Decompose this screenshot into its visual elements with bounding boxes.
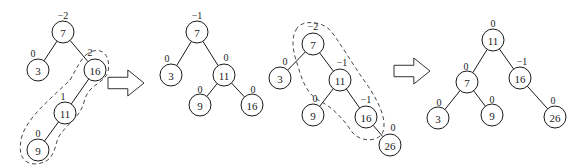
node-key: 3: [35, 65, 41, 77]
node-key: 11: [335, 75, 346, 87]
balance-factor: −2: [308, 21, 319, 32]
node-key: 9: [35, 145, 41, 157]
tree-edge: [70, 40, 88, 61]
tree-node: 16−1: [509, 56, 531, 90]
tree-edge: [44, 122, 58, 141]
tree-edge: [346, 89, 359, 108]
node-key: 9: [489, 110, 495, 122]
balance-factor: 0: [36, 128, 41, 139]
node-key: 3: [168, 70, 174, 82]
node-key: 7: [60, 27, 66, 39]
tree-node: 90: [302, 93, 324, 127]
tree-edge: [203, 41, 218, 65]
tree-edge: [71, 79, 88, 104]
balance-factor: 0: [437, 97, 442, 108]
tree-edge: [373, 125, 383, 136]
right-arrow-icon: [394, 58, 430, 84]
tree-edge: [499, 49, 513, 69]
tree-edge: [207, 84, 217, 97]
balance-factor: −1: [337, 57, 348, 68]
tree-node: 90: [27, 128, 49, 162]
node-key: 11: [219, 70, 230, 82]
tree-node: 90: [481, 94, 503, 127]
node-key: 11: [488, 35, 499, 47]
node-key: 11: [60, 108, 71, 120]
tree-node: 110: [482, 18, 504, 52]
balance-factor: 2: [88, 47, 93, 58]
tree-edge: [44, 41, 57, 61]
tree-node: 30: [27, 48, 49, 82]
tree-edge: [232, 83, 245, 97]
balance-factor: 0: [490, 94, 495, 105]
balance-factor: −2: [58, 10, 69, 21]
tree-node: 16−1: [355, 94, 377, 129]
tree-edge: [445, 91, 460, 110]
tree-edge: [320, 89, 334, 107]
node-key: 16: [247, 100, 259, 112]
tree-edge: [473, 49, 487, 72]
tree-edge: [177, 41, 192, 65]
tree-edge: [320, 53, 334, 71]
node-key: 7: [194, 27, 200, 39]
tree-node: 30: [427, 97, 449, 130]
node-key: 3: [435, 113, 441, 125]
balance-factor: 0: [165, 53, 170, 64]
balance-factor: 0: [391, 122, 396, 133]
balance-factor: 0: [551, 95, 556, 106]
tree-node: 7−1: [186, 10, 208, 44]
tree-node: 30: [160, 53, 182, 87]
tree-edge: [288, 52, 306, 70]
tree-node: 90: [189, 84, 211, 117]
node-key: 7: [464, 77, 470, 89]
node-key: 7: [310, 39, 316, 51]
balance-factor: 0: [491, 18, 496, 29]
balance-factor: 0: [283, 56, 288, 67]
balance-factor: 0: [251, 84, 256, 95]
balance-factor: −1: [192, 10, 203, 21]
node-key: 16: [361, 112, 373, 124]
balance-factor: −1: [517, 56, 528, 67]
tree-edge: [527, 86, 547, 109]
balance-factor: 0: [464, 61, 469, 72]
node-key: 9: [310, 110, 316, 122]
avl-rotation-diagram: 7−230162111907−130110901607−23011−19016−…: [0, 0, 579, 165]
balance-factor: 0: [31, 48, 36, 59]
node-key: 26: [385, 140, 397, 152]
balance-factor: 0: [224, 52, 229, 63]
tree-node: 30: [269, 56, 291, 90]
tree-node: 260: [544, 95, 566, 129]
node-key: 16: [90, 65, 102, 77]
balance-factor: −1: [361, 94, 372, 105]
tree-node: 110: [213, 52, 235, 87]
balance-factor: 0: [313, 93, 318, 104]
tree-node: 7−2: [302, 21, 324, 56]
balance-factor: 1: [61, 91, 66, 102]
tree-node: 111: [54, 91, 76, 125]
node-key: 9: [197, 100, 203, 112]
tree-node: 160: [241, 84, 263, 117]
node-key: 26: [550, 112, 562, 124]
node-key: 3: [277, 73, 283, 85]
balance-factor: 0: [198, 84, 203, 95]
tree-node: 7−2: [52, 10, 74, 44]
tree-node: 70: [456, 61, 478, 94]
right-arrow-icon: [108, 70, 144, 96]
tree-node: 11−1: [329, 57, 351, 92]
tree-edge: [474, 91, 486, 106]
tree-node: 260: [379, 122, 401, 157]
node-key: 16: [515, 73, 527, 85]
